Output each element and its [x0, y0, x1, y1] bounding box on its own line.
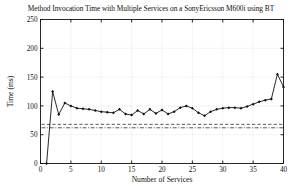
data-point-marker — [45, 162, 48, 165]
data-point-marker — [94, 109, 97, 112]
xtick-label: 20 — [158, 166, 166, 174]
chart-plot-area: 0501001502002500510152025303540 Number o… — [0, 0, 302, 190]
xtick-label: 40 — [280, 166, 288, 174]
xtick-label: 10 — [98, 166, 106, 174]
data-point-marker — [88, 108, 91, 111]
y-axis-title: Time (ms) — [6, 75, 15, 107]
xtick-label: 15 — [128, 166, 136, 174]
ytick-label: 150 — [27, 74, 38, 82]
ytick-label: 200 — [27, 45, 38, 53]
reference-lines — [42, 124, 284, 127]
series-line — [47, 74, 284, 163]
data-point-marker — [100, 110, 103, 113]
axis-tick-labels: 0501001502002500510152025303540 — [27, 16, 288, 174]
data-point-marker — [252, 103, 255, 106]
data-point-marker — [227, 106, 230, 109]
data-point-marker — [106, 111, 109, 114]
ytick-label: 0 — [34, 160, 38, 168]
data-point-marker — [233, 106, 236, 109]
data-point-marker — [270, 97, 273, 100]
chart-figure: Method Invocation Time with Multiple Ser… — [0, 0, 302, 190]
data-point-marker — [221, 107, 224, 110]
data-point-markers — [45, 73, 285, 165]
x-axis-title: Number of Services — [132, 175, 193, 184]
ytick-label: 50 — [30, 131, 38, 139]
data-point-marker — [276, 73, 279, 76]
data-point-marker — [282, 85, 285, 88]
data-point-marker — [258, 100, 261, 103]
data-point-marker — [215, 108, 218, 111]
xtick-label: 0 — [39, 166, 43, 174]
gridlines — [41, 20, 284, 164]
data-point-marker — [239, 107, 242, 110]
data-point-marker — [82, 107, 85, 110]
ytick-label: 250 — [27, 16, 38, 24]
data-point-marker — [69, 104, 72, 107]
xtick-label: 35 — [250, 166, 258, 174]
data-point-marker — [51, 90, 54, 93]
data-point-marker — [264, 99, 267, 102]
xtick-label: 30 — [219, 166, 227, 174]
data-series-line — [47, 74, 284, 163]
ytick-label: 100 — [27, 103, 38, 111]
data-point-marker — [185, 104, 188, 107]
xtick-label: 5 — [69, 166, 73, 174]
xtick-label: 25 — [189, 166, 197, 174]
data-point-marker — [246, 105, 249, 108]
data-point-marker — [75, 107, 78, 110]
